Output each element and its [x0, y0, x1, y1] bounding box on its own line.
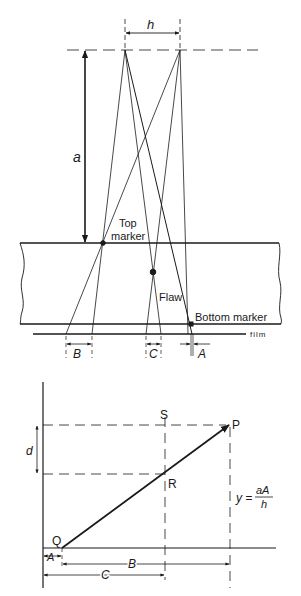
A-label-bottom: A — [46, 551, 54, 563]
B-label-top: B — [73, 347, 81, 361]
fraction-denominator: h — [261, 498, 267, 510]
S-label: S — [160, 408, 168, 422]
QP-line — [62, 425, 229, 548]
ray-left-source-flaw — [125, 50, 161, 334]
d-label: d — [26, 444, 33, 458]
top-diagram — [20, 19, 281, 358]
C-label-top: C — [149, 347, 158, 361]
Q-label: Q — [52, 534, 61, 548]
a-label: a — [73, 149, 81, 165]
y-equation-label: y = — [235, 491, 252, 505]
bottom-marker-dot — [189, 322, 193, 326]
R-label: R — [168, 477, 177, 491]
bottom-diagram — [37, 382, 276, 588]
radiographic-flaw-depth-diagram: h a Top marker Flaw Bottom marker film B… — [0, 0, 301, 596]
B-label-bottom: B — [128, 557, 136, 571]
top-marker-dot — [101, 241, 106, 246]
top-marker-label-line1: Top — [119, 217, 137, 229]
flaw-dot — [150, 269, 156, 275]
ray-left-source-top-marker — [92, 50, 125, 334]
flaw-label: Flaw — [159, 291, 182, 303]
P-label: P — [232, 418, 240, 432]
top-marker-label-line2: marker — [111, 230, 146, 242]
A-label-top: A — [197, 347, 206, 361]
fraction-numerator: aA — [256, 484, 269, 496]
C-label-bottom: C — [101, 568, 110, 582]
h-label: h — [147, 17, 154, 32]
slab-left-break-edge — [20, 243, 24, 324]
film-label: film — [250, 330, 266, 339]
bottom-marker-label: Bottom marker — [195, 311, 267, 323]
slab-right-break-edge — [279, 243, 282, 324]
